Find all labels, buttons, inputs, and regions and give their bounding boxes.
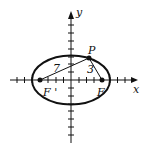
- y-axis: [68, 11, 74, 143]
- point-f-prime-label: F ': [42, 86, 57, 99]
- point-f-label: F: [96, 86, 105, 99]
- x-axis-label: x: [133, 83, 140, 96]
- y-axis-label: y: [75, 6, 83, 19]
- point-f: [100, 78, 105, 83]
- y-axis-arrow-icon: [68, 11, 74, 19]
- segment-pf-label: 3: [87, 63, 94, 76]
- point-f-prime: [38, 78, 43, 83]
- point-p-label: P: [87, 44, 96, 57]
- ellipse-diagram: y x P F F ' 7 3: [0, 0, 142, 147]
- x-axis: [10, 77, 138, 83]
- segment-pf-prime-label: 7: [53, 62, 60, 75]
